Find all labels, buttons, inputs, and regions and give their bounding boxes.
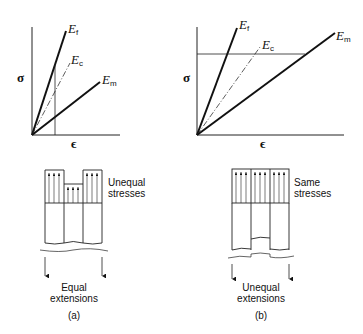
label-ec-b: Ec [262,39,274,54]
label-ef-b: Ef [239,19,249,34]
line-ef [197,28,237,135]
caption-a: (a) [64,310,84,321]
label-em-a: Em [102,74,117,89]
line-ef [32,31,66,135]
caption-b: (b) [251,310,271,321]
x-axis-label-a: ϵ [71,138,76,149]
line-ec [197,47,260,135]
label-em-b: Em [336,30,351,45]
line-em [32,82,100,135]
y-axis-label-b: σ [183,72,190,83]
extension-label-a: Equalextensions [44,282,104,304]
y-axis-label-a: σ [17,72,24,83]
composite-block-b [228,169,294,279]
composite-block-a [40,170,108,276]
x-axis-label-b: ϵ [260,138,265,149]
stress-label-b: Samestresses [294,177,331,199]
stress-label-a: Unequalstresses [108,177,145,199]
label-ef-a: Ef [68,23,78,38]
label-ec-a: Ec [71,54,83,69]
extension-label-b: Unequalextensions [226,282,296,304]
